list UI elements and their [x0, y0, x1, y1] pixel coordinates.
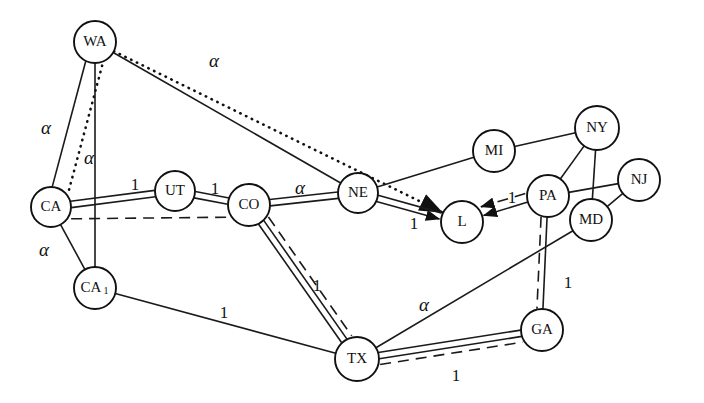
node-label-wa: WA — [83, 33, 106, 49]
node-wa[interactable]: WA — [74, 21, 116, 63]
edge-ut-co — [194, 198, 228, 204]
node-label-pa: PA — [539, 187, 557, 203]
network-diagram: WACACA1UTCONELMINYPANJMDTXGA ααα11α1α111… — [0, 0, 704, 403]
node-label-nj: NJ — [631, 171, 648, 187]
node-ut[interactable]: UT — [155, 171, 195, 211]
diagram-canvas: WACACA1UTCONELMINYPANJMDTXGA ααα11α1α111… — [0, 0, 704, 403]
edge-mi-ne — [377, 157, 474, 187]
node-nj[interactable]: NJ — [618, 159, 660, 201]
node-label-subscript-ca1: 1 — [104, 285, 109, 296]
node-label-tx: TX — [347, 350, 367, 366]
edge-wa-ca-solid — [52, 61, 85, 186]
edge-label-lbl-ca1-tx: 1 — [220, 303, 229, 322]
node-tx[interactable]: TX — [335, 337, 379, 381]
edge-ny-md — [592, 150, 595, 199]
node-l[interactable]: L — [441, 201, 483, 243]
edge-nj-md — [607, 193, 623, 206]
edge-wa-ca-dotted — [69, 66, 102, 191]
edge-ny-pa — [560, 146, 584, 179]
node-label-mi: MI — [485, 142, 503, 158]
edge-ca-ut — [71, 197, 155, 208]
edge-ca-ca1 — [61, 225, 85, 270]
edge-mi-ny — [515, 133, 576, 147]
node-ga[interactable]: GA — [521, 309, 563, 351]
edge-tx-ga-dashed — [380, 342, 523, 364]
edge-pa-ga — [543, 217, 547, 309]
node-label-ga: GA — [531, 321, 553, 337]
node-co[interactable]: CO — [228, 184, 270, 226]
edge-pa-ga-dashed — [537, 217, 541, 309]
node-ne[interactable]: NE — [338, 173, 378, 213]
node-ca1[interactable]: CA1 — [74, 267, 116, 309]
node-label-md: MD — [579, 211, 603, 227]
edge-label-lbl-wa-l: α — [209, 50, 220, 71]
edge-label-lbl-wa-ca1: α — [84, 147, 95, 168]
node-label-ny: NY — [586, 119, 608, 135]
edge-label-lbl-co-ne: α — [295, 177, 306, 198]
node-pa[interactable]: PA — [527, 175, 569, 217]
node-label-ca1: CA — [81, 279, 102, 295]
edge-ca-ut — [70, 190, 154, 201]
edge-label-lbl-ut-co: 1 — [211, 179, 220, 198]
edge-co-tx-dashed — [268, 217, 351, 336]
edge-label-lbl-tx-md: α — [419, 294, 430, 315]
node-ca[interactable]: CA — [31, 187, 71, 227]
node-label-ut: UT — [165, 182, 185, 198]
edge-co-tx — [264, 220, 347, 339]
node-label-l: L — [457, 213, 466, 229]
edge-label-lbl-pa-ga: 1 — [564, 273, 573, 292]
edge-tx-ga — [379, 336, 522, 358]
node-label-ne: NE — [348, 184, 368, 200]
edge-label-lbl-co-tx: 1 — [313, 276, 322, 295]
edge-co-ne — [270, 198, 338, 206]
edge-co-tx — [258, 224, 341, 343]
edge-label-lbl-wa-ca-d: α — [41, 117, 52, 138]
edge-label-lbl-tx-ga: 1 — [452, 366, 461, 385]
node-label-ca: CA — [41, 198, 62, 214]
node-label-co: CO — [239, 196, 260, 212]
node-mi[interactable]: MI — [473, 130, 515, 172]
edge-label-lbl-ca-ca1: α — [39, 239, 50, 260]
edge-wa-ne — [113, 52, 340, 183]
node-md[interactable]: MD — [570, 199, 612, 241]
edge-label-lbl-ca-ut: 1 — [131, 175, 140, 194]
node-ny[interactable]: NY — [575, 106, 619, 150]
edge-label-lbl-pa-l: 1 — [508, 188, 517, 207]
edge-label-lbl-ne-l: 1 — [410, 214, 419, 233]
